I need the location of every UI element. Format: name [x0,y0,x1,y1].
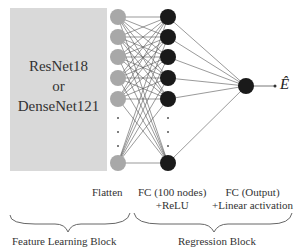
network-diagram [0,0,308,250]
fc-output-label: FC (Output) +Linear activation [212,186,293,212]
hidden-node [160,9,176,25]
output-node [238,78,254,94]
hidden-node [160,70,176,86]
regression-block-label: Regression Block [178,235,256,247]
output-symbol: Ê [280,76,289,93]
hidden-node [160,49,176,65]
flatten-node [110,155,126,171]
feature-learning-block-label: Feature Learning Block [12,235,116,247]
flatten-node [110,49,126,65]
hidden-node [160,29,176,45]
hidden-node [160,91,176,107]
flatten-node [110,91,126,107]
flatten-node [110,9,126,25]
flatten-node [110,70,126,86]
hidden-node [160,155,176,171]
flatten-node [110,29,126,45]
flatten-label: Flatten [92,186,123,199]
fc-hidden-label: FC (100 nodes) +ReLU [138,186,206,212]
